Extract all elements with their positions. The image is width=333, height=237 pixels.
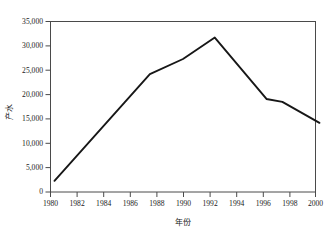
x-tick-label-2000: 2000	[308, 199, 323, 208]
x-tick-label-1980: 1980	[43, 199, 58, 208]
x-tick-label-1992: 1992	[203, 199, 218, 208]
y-tick-label-30000: 30,000	[22, 41, 43, 50]
series-line-water-production	[54, 38, 319, 181]
x-tick-label-1982: 1982	[70, 199, 85, 208]
y-axis-ticks	[46, 22, 51, 193]
y-tick-label-15000: 15,000	[22, 114, 43, 123]
x-tick-label-1996: 1996	[256, 199, 271, 208]
x-axis-ticks	[51, 192, 316, 197]
chart-container: 0 5,000 10,000 15,000 20,000 25,000 30,0…	[0, 0, 333, 237]
x-tick-label-1986: 1986	[123, 199, 138, 208]
y-tick-label-10000: 10,000	[22, 139, 43, 148]
x-axis-tick-labels: 1980 1982 1984 1986 1988 1990 1992 1994 …	[43, 199, 323, 208]
y-tick-label-25000: 25,000	[22, 66, 43, 75]
x-tick-label-1984: 1984	[96, 199, 111, 208]
x-axis-title: 年份	[175, 217, 191, 227]
y-tick-label-35000: 35,000	[22, 17, 43, 26]
y-axis-title: 产水	[4, 104, 14, 120]
y-tick-label-20000: 20,000	[22, 90, 43, 99]
plot-frame	[51, 22, 316, 193]
x-tick-label-1998: 1998	[282, 199, 297, 208]
y-axis-tick-labels: 0 5,000 10,000 15,000 20,000 25,000 30,0…	[22, 17, 43, 197]
y-tick-label-0: 0	[39, 187, 43, 196]
y-tick-label-5000: 5,000	[26, 163, 43, 172]
x-tick-label-1990: 1990	[176, 199, 191, 208]
x-tick-label-1994: 1994	[229, 199, 244, 208]
x-tick-label-1988: 1988	[149, 199, 164, 208]
line-chart: 0 5,000 10,000 15,000 20,000 25,000 30,0…	[0, 0, 333, 237]
